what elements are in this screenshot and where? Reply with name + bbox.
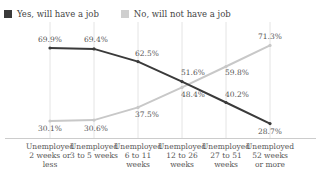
data-label-no-4: 59.8% [225,68,249,77]
data-label-yes-5: 28.7% [258,127,282,136]
data-label-no-0: 30.1% [38,124,62,133]
x-label-5-line1: Unemployed [244,142,296,151]
data-label-yes-3: 51.6% [181,68,205,77]
x-label-5-line3: or more [244,160,296,169]
series-points-yes [48,46,271,125]
series-points-no [48,44,271,123]
data-label-no-2: 37.5% [135,110,159,119]
data-label-yes-4: 40.2% [225,90,249,99]
data-label-no-5: 71.3% [258,32,282,41]
x-label-5: Unemployed 52 weeks or more [244,142,296,169]
data-label-yes-1: 69.4% [84,35,108,44]
x-label-5-line2: 52 weeks [244,151,296,160]
data-label-yes-0: 69.9% [38,35,62,44]
data-label-no-1: 30.6% [84,124,108,133]
series-line-yes [50,48,270,124]
series-line-no [50,45,270,121]
data-label-no-3: 48.4% [181,90,205,99]
data-label-yes-2: 62.5% [135,49,159,58]
